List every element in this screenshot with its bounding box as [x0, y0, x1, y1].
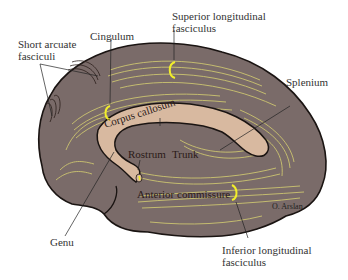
- label-trunk: Trunk: [172, 148, 199, 160]
- label-rostrum: Rostrum: [128, 148, 166, 160]
- label-splenium: Splenium: [286, 76, 328, 88]
- brain-diagram: Superior longitudinal fasciculus Short a…: [0, 0, 348, 280]
- label-superior-longitudinal: Superior longitudinal: [172, 10, 266, 22]
- label-anterior-commissure: Anterior commissure: [137, 188, 230, 200]
- label-short-arcuate: Short arcuate: [18, 38, 76, 50]
- label-inferior-longitudinal-2: fasciculus: [222, 256, 266, 268]
- artist-signature: O. Arslan: [272, 202, 303, 211]
- label-cingulum: Cingulum: [90, 30, 134, 42]
- label-short-arcuate-2: fasciculi: [18, 50, 55, 62]
- label-inferior-longitudinal: Inferior longitudinal: [222, 244, 312, 256]
- label-genu: Genu: [50, 236, 74, 248]
- label-superior-longitudinal-2: fasciculus: [172, 22, 216, 34]
